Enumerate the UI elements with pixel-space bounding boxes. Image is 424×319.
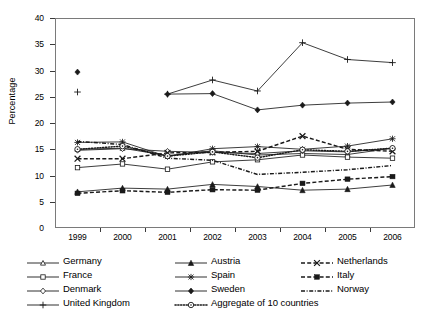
legend-swatch [300, 283, 334, 295]
legend-item[interactable]: Italy [300, 268, 354, 282]
data-point-diamond-open [41, 288, 46, 294]
legend-item[interactable]: Spain [174, 268, 235, 282]
data-point-plus [74, 89, 81, 96]
legend-item[interactable]: Austria [174, 254, 240, 268]
chart-legend: GermanyFranceDenmarkUnited KingdomAustri… [26, 254, 418, 314]
data-point-asterisk [188, 274, 194, 280]
legend-item[interactable]: United Kingdom [26, 296, 130, 310]
legend-label: France [60, 270, 92, 280]
data-point-asterisk [389, 136, 395, 142]
series-line [168, 94, 393, 110]
data-point-circle-dot [120, 143, 125, 148]
data-point-square-filled [390, 174, 395, 179]
legend-item[interactable]: France [26, 268, 92, 282]
data-point-circle-dot [75, 147, 80, 152]
chart-screenshot: Percentage 0510152025303540 199920002001… [0, 0, 424, 319]
legend-label: Sweden [208, 284, 245, 294]
legend-swatch [26, 297, 60, 309]
data-point-diamond-filled [345, 100, 350, 106]
legend-item[interactable]: Denmark [26, 282, 101, 296]
series-france [75, 153, 394, 172]
data-point-square-filled [315, 275, 320, 280]
data-point-circle-dot [390, 146, 395, 151]
legend-label: Spain [208, 270, 235, 280]
data-point-diamond-filled [165, 91, 170, 97]
legend-item[interactable]: Norway [300, 282, 369, 296]
legend-swatch [300, 269, 334, 281]
legend-swatch [174, 255, 208, 267]
data-point-asterisk [74, 139, 80, 145]
legend-swatch [300, 255, 334, 267]
legend-swatch [26, 255, 60, 267]
data-point-plus [209, 77, 216, 84]
data-series-layer [0, 0, 424, 250]
legend-label: Austria [208, 256, 240, 266]
data-point-diamond-filled [210, 91, 215, 97]
data-point-square-filled [345, 177, 350, 182]
series-sweden [75, 69, 395, 113]
data-point-diamond-filled [390, 99, 395, 105]
data-point-diamond-filled [300, 102, 305, 108]
data-point-square-filled [75, 191, 80, 196]
data-point-square-filled [300, 181, 305, 186]
data-point-circle-dot [188, 302, 193, 307]
legend-label: Germany [60, 256, 102, 266]
data-point-square-open [41, 275, 45, 279]
legend-label: United Kingdom [60, 298, 130, 308]
line-chart: Percentage 0510152025303540 199920002001… [0, 0, 424, 250]
data-point-circle-dot [345, 149, 350, 154]
data-point-square-open [165, 167, 169, 171]
legend-label: Italy [334, 270, 354, 280]
data-point-diamond-filled [75, 69, 80, 75]
data-point-square-filled [165, 190, 170, 195]
data-point-circle-dot [210, 149, 215, 154]
data-point-square-filled [120, 188, 125, 193]
legend-item[interactable]: Netherlands [300, 254, 388, 268]
data-point-square-filled [255, 188, 260, 193]
legend-swatch [26, 269, 60, 281]
data-point-square-open [390, 156, 394, 160]
data-point-circle-dot [300, 147, 305, 152]
data-point-plus [344, 56, 351, 63]
legend-item[interactable]: Aggregate of 10 countries [174, 296, 319, 310]
data-point-square-open [345, 155, 349, 159]
legend-label: Netherlands [334, 256, 388, 266]
data-point-circle-dot [165, 153, 170, 158]
legend-swatch [174, 283, 208, 295]
data-point-square-open [120, 162, 124, 166]
legend-label: Norway [334, 284, 369, 294]
data-point-square-filled [210, 187, 215, 192]
data-point-circle-dot [255, 155, 260, 160]
legend-item[interactable]: Germany [26, 254, 102, 268]
legend-swatch [174, 269, 208, 281]
data-point-diamond-filled [255, 107, 260, 113]
legend-swatch [26, 283, 60, 295]
legend-label: Aggregate of 10 countries [208, 298, 319, 308]
legend-label: Denmark [60, 284, 101, 294]
legend-item[interactable]: Sweden [174, 282, 245, 296]
data-point-square-open [75, 165, 79, 169]
data-point-plus [40, 302, 47, 309]
legend-swatch [174, 297, 208, 309]
data-point-diamond-filled [188, 288, 193, 294]
series-italy [75, 174, 395, 195]
series-line [168, 43, 393, 94]
data-point-plus [389, 59, 396, 66]
series-united-kingdom [74, 39, 396, 97]
